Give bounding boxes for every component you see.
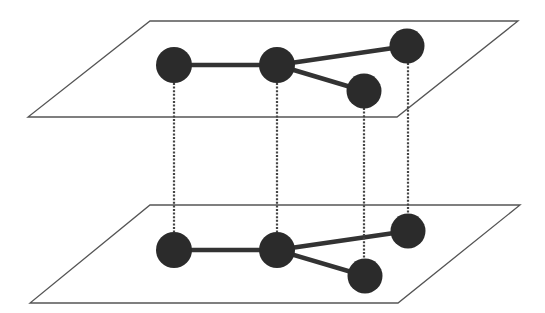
top-node-n1: [156, 47, 192, 83]
top-node-n3: [347, 74, 382, 109]
bottom-node-n3: [348, 259, 383, 294]
top-node-n2: [259, 47, 295, 83]
top-node-n4: [390, 29, 425, 64]
bottom-node-n1: [156, 232, 192, 268]
bottom-node-n4: [391, 214, 426, 249]
bottom-node-n2: [259, 232, 295, 268]
multilayer-network-diagram: [0, 0, 545, 313]
